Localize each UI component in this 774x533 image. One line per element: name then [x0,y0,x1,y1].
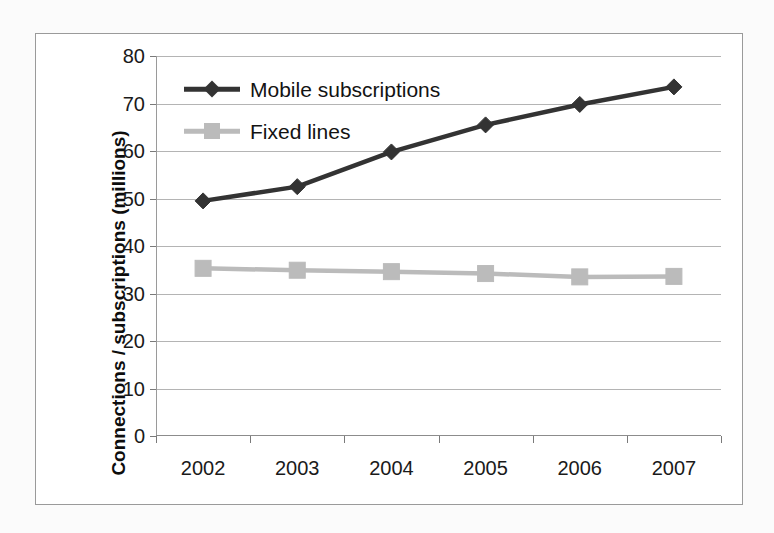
legend-diamond-marker-icon [184,80,240,98]
data-point-marker [289,262,305,278]
legend-marker-shape [204,123,220,139]
plot-area: 01020304050607080 2002200320042005200620… [156,56,721,436]
y-tick-label: 80 [123,46,145,66]
x-tick-mark [533,436,534,443]
x-tick-label: 2003 [275,458,320,478]
x-tick-label: 2006 [558,458,603,478]
legend-label: Fixed lines [250,121,350,142]
y-tick-label: 70 [123,94,145,114]
y-tick-label: 40 [123,236,145,256]
x-tick-label: 2004 [369,458,414,478]
y-tick-label: 0 [134,426,145,446]
x-tick-mark [627,436,628,443]
data-point-marker [572,96,588,112]
x-tick-mark [721,436,722,443]
y-tick-label: 60 [123,141,145,161]
legend-label: Mobile subscriptions [250,79,440,100]
x-tick-label: 2005 [463,458,508,478]
series-2 [195,260,682,285]
x-tick-label: 2007 [652,458,697,478]
data-point-marker [195,193,211,209]
x-tick-mark [439,436,440,443]
x-tick-mark [250,436,251,443]
data-point-marker [289,179,305,195]
data-point-marker [478,117,494,133]
legend-square-marker-icon [184,122,240,140]
x-tick-mark [156,436,157,443]
data-point-marker [572,269,588,285]
y-tick-label: 30 [123,284,145,304]
x-tick-mark [344,436,345,443]
series-line [203,268,674,277]
chart-frame: Connections / subscriptions (millions) 0… [35,33,743,505]
legend-marker-shape [204,81,221,98]
y-tick-label: 10 [123,379,145,399]
legend-item: Fixed lines [184,110,440,152]
legend-item: Mobile subscriptions [184,68,440,110]
data-point-marker [478,266,494,282]
data-point-marker [195,260,211,276]
chart-figure: Connections / subscriptions (millions) 0… [0,0,774,533]
data-point-marker [666,79,682,95]
chart-legend: Mobile subscriptionsFixed lines [184,68,440,152]
x-tick-label: 2002 [181,458,226,478]
y-tick-label: 50 [123,189,145,209]
y-tick-label: 20 [123,331,145,351]
data-point-marker [383,264,399,280]
data-point-marker [666,268,682,284]
